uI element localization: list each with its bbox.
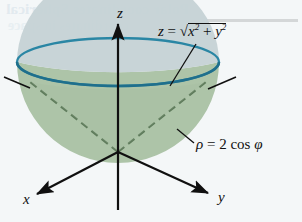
sphere-equation-label: ρ = 2 cos φ bbox=[196, 137, 262, 152]
x-axis bbox=[37, 152, 118, 194]
cone-eq-equals: = bbox=[168, 23, 176, 39]
radical-overbar bbox=[188, 23, 227, 24]
cone-eq-radical: √x2 + y2 bbox=[180, 23, 227, 39]
z-axis-label: z bbox=[117, 6, 123, 21]
x-axis-label: x bbox=[23, 192, 30, 207]
sphere-eq-coefficient: 2 bbox=[219, 136, 227, 152]
figure-container: Polar coordinates Spherical coordinates … bbox=[0, 0, 302, 222]
sphere-eq-rho: ρ bbox=[196, 136, 203, 152]
sphere-eq-argument: φ bbox=[254, 136, 262, 152]
cone-equation-label: z = √x2 + y2 bbox=[158, 23, 226, 39]
cone-eq-y: y bbox=[215, 23, 222, 39]
diagram-canvas bbox=[0, 0, 302, 222]
cone-eq-plus: + bbox=[203, 23, 211, 39]
y-axis-label: y bbox=[218, 190, 225, 205]
y-axis bbox=[118, 152, 208, 193]
sphere-eq-equals: = bbox=[207, 136, 215, 152]
cone-eq-x: x bbox=[188, 23, 195, 39]
cone-eq-lhs: z bbox=[158, 23, 164, 39]
sphere-eq-function: cos bbox=[230, 136, 250, 152]
